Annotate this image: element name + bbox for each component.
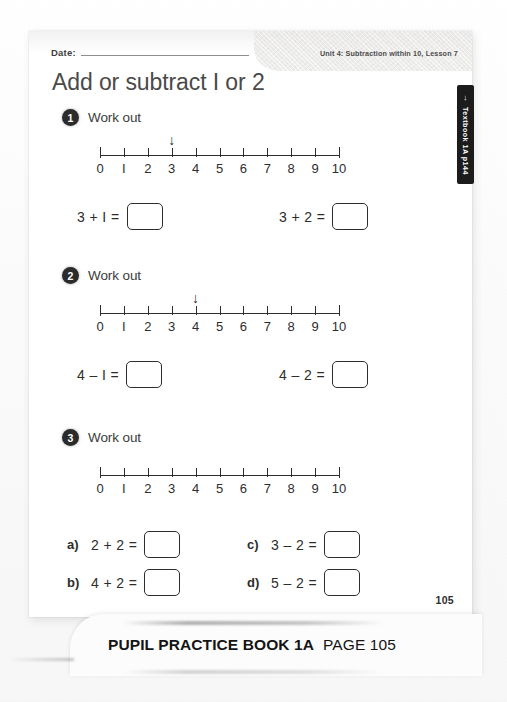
number-line-tick: [124, 468, 125, 477]
number-line-tick-label: 10: [328, 481, 350, 496]
number-line-tick-label: 10: [328, 319, 350, 334]
number-line-tick-label: 7: [256, 319, 278, 334]
number-line-tick: [124, 148, 125, 157]
number-line-tick-label: 0: [89, 161, 111, 176]
equation-item: 4 – I =: [77, 361, 162, 388]
unit-header: Unit 4: Subtraction within 10, Lesson 7: [320, 49, 458, 58]
number-line-tick-label: 5: [209, 481, 231, 496]
number-line-tick: [196, 148, 197, 157]
number-line-tick: [172, 306, 173, 315]
equation-item: b)4 + 2 =: [67, 569, 180, 596]
number-line-tick: [220, 148, 221, 157]
number-line-tick-label: 3: [161, 481, 183, 496]
number-line-tick-label: 8: [280, 161, 302, 176]
textbook-reference-label: Textbook 1A p144: [461, 107, 470, 175]
textbook-reference-tab-inner: → Textbook 1A p144: [461, 94, 470, 174]
equation-item: 3 + 2 =: [279, 203, 368, 230]
number-line-tick: [339, 305, 340, 316]
number-line-tick: [291, 148, 292, 157]
caption-smudge-top: [122, 621, 384, 625]
number-line-tick-label: 4: [185, 319, 207, 334]
number-line-tick: [291, 306, 292, 315]
number-line-tick: [243, 468, 244, 477]
equation-expression: 4 – 2 =: [279, 367, 325, 383]
answer-box[interactable]: [332, 361, 368, 388]
question-instruction: Work out: [88, 110, 141, 125]
number-line-tick: [124, 306, 125, 315]
question-number-badge: 1: [62, 109, 79, 126]
answer-box[interactable]: [144, 569, 180, 596]
number-line-tick-label: 3: [161, 319, 183, 334]
number-line-tick: [100, 147, 101, 158]
page-number: 105: [436, 594, 454, 606]
answer-box[interactable]: [127, 203, 163, 230]
date-field[interactable]: Date:: [51, 47, 249, 58]
number-line-tick: [291, 468, 292, 477]
equation-item: 4 – 2 =: [279, 361, 368, 388]
number-line-tick-label: 3: [161, 161, 183, 176]
number-line-tick-label: I: [113, 481, 135, 496]
number-line-tick: [315, 148, 316, 157]
number-line-arrow-icon: ↓: [190, 291, 202, 305]
number-line-tick-label: 5: [209, 319, 231, 334]
number-line-tick: [315, 306, 316, 315]
question-number-badge: 2: [62, 267, 79, 284]
number-line-tick: [267, 306, 268, 315]
number-line-tick-label: I: [113, 319, 135, 334]
number-line-tick: [220, 306, 221, 315]
number-line-tick: [172, 148, 173, 157]
number-line-tick-label: 2: [137, 319, 159, 334]
equation-letter: b): [67, 575, 84, 590]
number-line-tick-label: 9: [304, 161, 326, 176]
number-line-tick-label: 10: [328, 161, 350, 176]
equation-expression: 3 + 2 =: [279, 209, 325, 225]
number-line-tick: [196, 306, 197, 315]
number-line-tick-label: 0: [89, 481, 111, 496]
question-2-header: 2Work out: [62, 267, 141, 284]
answer-box[interactable]: [324, 531, 360, 558]
number-line-tick-label: 6: [232, 161, 254, 176]
arrow-right-icon: →: [462, 94, 470, 102]
answer-box[interactable]: [324, 569, 360, 596]
equation-letter: c): [247, 537, 264, 552]
equation-item: a)2 + 2 =: [67, 531, 180, 558]
caption-banner: PUPIL PRACTICE BOOK 1APAGE 105: [70, 614, 482, 676]
number-line-tick-label: 9: [304, 481, 326, 496]
caption-smudge-bottom: [122, 670, 384, 674]
answer-box[interactable]: [332, 203, 368, 230]
number-line-tick: [339, 467, 340, 478]
number-line-tick-label: 4: [185, 161, 207, 176]
number-line-tick-label: 7: [256, 161, 278, 176]
number-line-tick-label: 6: [232, 319, 254, 334]
date-label: Date:: [51, 47, 76, 58]
number-line-arrow-icon: ↓: [166, 133, 178, 147]
equation-expression: 5 – 2 =: [271, 575, 317, 591]
number-line-tick: [267, 468, 268, 477]
number-line-tick-label: 8: [280, 481, 302, 496]
equation-expression: 2 + 2 =: [91, 537, 137, 553]
answer-box[interactable]: [144, 531, 180, 558]
number-line-tick-label: 4: [185, 481, 207, 496]
number-line-tick-label: 9: [304, 319, 326, 334]
number-line-tick-label: 2: [137, 481, 159, 496]
number-line-tick: [148, 148, 149, 157]
number-line-tick: [196, 468, 197, 477]
number-line-tick-label: 7: [256, 481, 278, 496]
equation-item: c)3 – 2 =: [247, 531, 360, 558]
number-line: ↓0I2345678910: [100, 133, 339, 187]
number-line-tick-label: 6: [232, 481, 254, 496]
worksheet-page: Date: Unit 4: Subtraction within 10, Les…: [29, 31, 472, 617]
number-line-tick-label: 8: [280, 319, 302, 334]
textbook-reference-tab: → Textbook 1A p144: [457, 85, 474, 184]
caption-book-title: PUPIL PRACTICE BOOK 1A: [108, 636, 314, 653]
number-line-tick: [100, 305, 101, 316]
caption-page-label: PAGE 105: [323, 636, 396, 653]
number-line-tick: [100, 467, 101, 478]
number-line-tick: [243, 306, 244, 315]
question-3-header: 3Work out: [62, 429, 141, 446]
number-line-tick: [315, 468, 316, 477]
answer-box[interactable]: [126, 361, 162, 388]
equation-expression: 3 + I =: [77, 209, 120, 225]
caption-text: PUPIL PRACTICE BOOK 1APAGE 105: [108, 636, 396, 654]
date-write-line[interactable]: [81, 55, 249, 56]
